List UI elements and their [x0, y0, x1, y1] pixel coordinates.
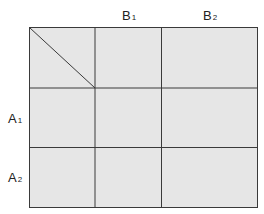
table-grid — [0, 0, 264, 214]
row-header-a2-base: A — [8, 170, 17, 185]
column-header-b1-base: B — [122, 8, 131, 23]
column-header-b2: B2 — [203, 9, 217, 22]
row-header-a1-base: A — [8, 111, 17, 126]
column-header-b1: B1 — [122, 9, 136, 22]
row-header-a1: A1 — [8, 112, 22, 125]
row-header-a1-sub: 1 — [18, 116, 22, 125]
column-header-b2-base: B — [203, 8, 212, 23]
column-header-b2-sub: 2 — [213, 13, 217, 22]
row-header-a2: A2 — [8, 171, 22, 184]
column-header-b1-sub: 1 — [132, 13, 136, 22]
row-header-a2-sub: 2 — [18, 175, 22, 184]
table-background — [30, 28, 258, 208]
